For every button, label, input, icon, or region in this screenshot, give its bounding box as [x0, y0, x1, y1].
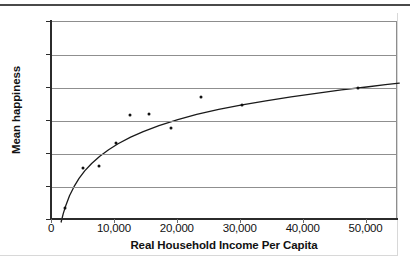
x-tick-mark [114, 219, 115, 223]
x-tick-mark [303, 219, 304, 223]
data-point [129, 114, 132, 117]
chart-figure: 1.92.02.12.22.32.42.5 010,00020,00030,00… [0, 0, 410, 259]
y-tick-mark [46, 120, 51, 121]
y-tick-mark [46, 153, 51, 154]
x-axis-line [50, 218, 398, 220]
x-tick-label: 30,000 [210, 222, 270, 234]
gridline-horizontal [52, 154, 396, 155]
x-tick-mark [366, 219, 367, 223]
data-point [240, 103, 243, 106]
plot-area [51, 21, 397, 219]
data-point [357, 87, 360, 90]
data-point [114, 142, 117, 145]
x-axis-title: Real Household Income Per Capita [51, 239, 397, 251]
data-point [64, 207, 67, 210]
y-tick-mark [46, 87, 51, 88]
data-point [147, 113, 150, 116]
x-tick-mark [177, 219, 178, 223]
gridline-horizontal [52, 121, 396, 122]
y-tick-mark [46, 21, 51, 22]
x-tick-mark [240, 219, 241, 223]
page-divider-rule [0, 4, 410, 6]
y-axis-title: Mean happiness [10, 50, 22, 170]
x-tick-mark [51, 219, 52, 223]
gridline-horizontal [52, 55, 396, 56]
gridline-horizontal [52, 88, 396, 89]
y-tick-mark [46, 54, 51, 55]
x-tick-label: 50,000 [336, 222, 396, 234]
x-tick-label: 40,000 [273, 222, 333, 234]
data-point [82, 167, 85, 170]
x-tick-label: 0 [21, 222, 81, 234]
x-tick-label: 20,000 [147, 222, 207, 234]
data-point [97, 164, 100, 167]
y-tick-mark [46, 186, 51, 187]
gridline-horizontal [52, 187, 396, 188]
data-point [169, 126, 172, 129]
x-tick-label: 10,000 [84, 222, 144, 234]
data-point [200, 96, 203, 99]
